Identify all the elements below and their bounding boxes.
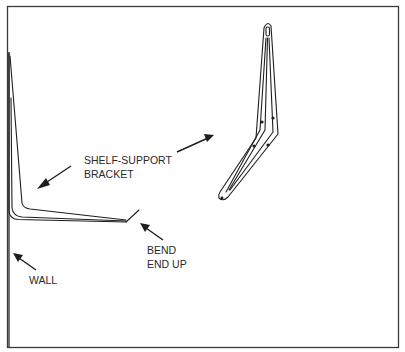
label-shelf-support: SHELF-SUPPORT (84, 154, 172, 166)
loose-bracket-top-slot (266, 27, 270, 36)
screw-hole (266, 143, 269, 146)
screw-hole (252, 144, 255, 147)
arrow-head (140, 223, 150, 232)
label-end-up: END UP (147, 258, 187, 270)
arrow-to-bent-end (140, 223, 163, 240)
arrow-head (13, 253, 23, 262)
arrow-to-installed-bracket (37, 166, 71, 189)
screw-hole (271, 116, 274, 119)
arrow-head (204, 134, 214, 142)
loose-bracket (219, 24, 278, 200)
arrow-to-wall (13, 253, 36, 270)
screw-hole (221, 197, 224, 200)
label-bracket: BRACKET (84, 168, 134, 180)
installed-bracket-inner (10, 56, 126, 220)
screw-hole (260, 120, 263, 123)
figure-frame (8, 7, 399, 348)
label-bend: BEND (147, 244, 177, 256)
installed-bracket-outer (9, 53, 126, 222)
bent-end-tip (126, 210, 139, 222)
arrow-head (37, 178, 50, 189)
label-wall: WALL (29, 274, 57, 286)
installed-bracket (9, 53, 139, 222)
shelf-bracket-diagram: SHELF-SUPPORT BRACKET BEND END UP WALL (0, 0, 405, 352)
arrow-to-loose-bracket (177, 134, 214, 152)
